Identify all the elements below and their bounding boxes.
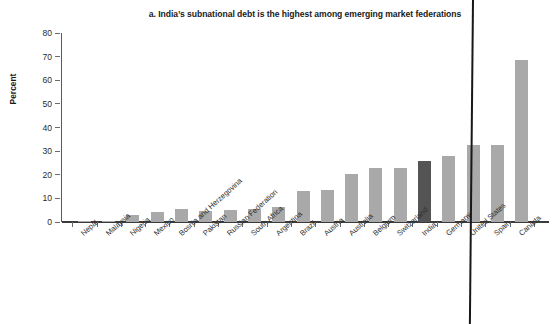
- chart-figure: a. India’s subnational debt is the highe…: [0, 0, 560, 324]
- y-axis-tick-mark: [55, 151, 60, 152]
- y-axis-tick-mark: [55, 103, 60, 104]
- y-axis-tick-label: 10: [42, 193, 52, 203]
- y-axis-tick-label: 0: [47, 217, 52, 227]
- y-axis-tick: 0: [0, 217, 62, 227]
- bar-austria: [321, 190, 334, 222]
- bar-canada: [515, 60, 528, 222]
- y-axis-tick-label: 30: [42, 146, 52, 156]
- y-axis-tick-mark: [55, 222, 60, 223]
- y-axis-tick: 50: [0, 99, 62, 109]
- plot-area: [62, 33, 548, 222]
- y-axis-tick-mark: [55, 174, 60, 175]
- bar-bosnia-and-herzegovina: [175, 209, 188, 222]
- bar-united-states: [467, 145, 480, 222]
- bar-australia: [345, 174, 358, 222]
- y-axis-tick: 30: [0, 146, 62, 156]
- y-axis-tick: 80: [0, 28, 62, 38]
- y-axis-tick-label: 80: [42, 28, 52, 38]
- y-axis-tick-label: 20: [42, 170, 52, 180]
- y-axis-tick-mark: [55, 33, 60, 34]
- y-axis-label: Percent: [8, 54, 18, 124]
- chart-title: a. India’s subnational debt is the highe…: [70, 9, 540, 19]
- bar-switzerland: [394, 168, 407, 222]
- y-axis-tick-label: 60: [42, 75, 52, 85]
- x-axis-tick: [72, 222, 73, 227]
- y-axis-tick-label: 50: [42, 99, 52, 109]
- y-axis-tick-mark: [55, 198, 60, 199]
- y-axis-tick-mark: [55, 127, 60, 128]
- y-axis-tick: 40: [0, 123, 62, 133]
- y-axis-tick-mark: [55, 80, 60, 81]
- y-axis-tick-label: 40: [42, 123, 52, 133]
- x-axis-label-india: India: [420, 220, 438, 238]
- bar-germany: [442, 156, 455, 222]
- y-axis-tick: 10: [0, 193, 62, 203]
- y-axis-tick: 60: [0, 75, 62, 85]
- y-axis-tick: 70: [0, 52, 62, 62]
- y-axis-tick-mark: [55, 56, 60, 57]
- y-axis-tick-label: 70: [42, 52, 52, 62]
- y-axis-tick: 20: [0, 170, 62, 180]
